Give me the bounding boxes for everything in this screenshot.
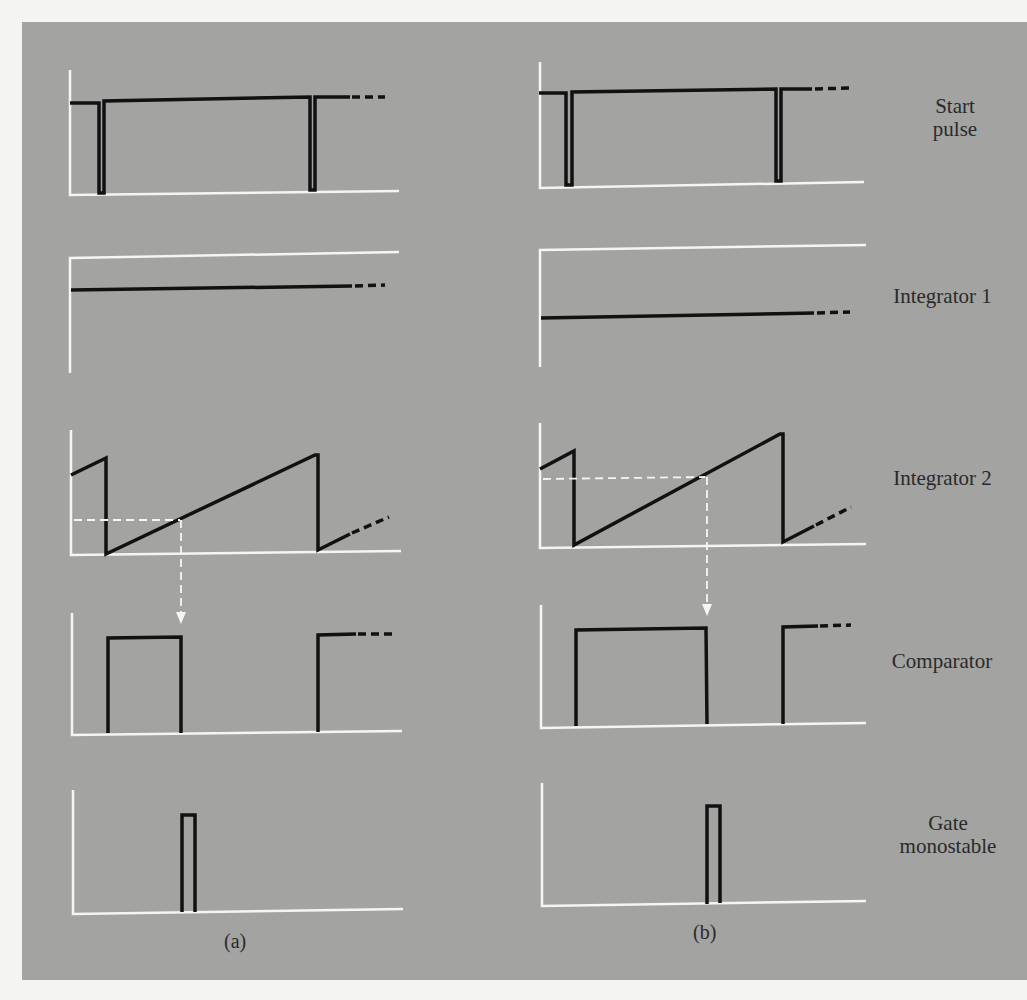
- label-integrator-1-text: Integrator 1: [870, 285, 1015, 308]
- timing-diagram: [0, 0, 1027, 1000]
- caption-b: (b): [693, 921, 716, 944]
- integrator-1-a: [70, 252, 399, 373]
- integrator-1-b: [540, 245, 866, 367]
- caption-a: (a): [224, 930, 246, 953]
- label-start-pulse-line2: pulse: [900, 118, 1010, 141]
- gate-monostable-b: [542, 783, 866, 906]
- label-integrator-1: Integrator 1: [870, 285, 1015, 308]
- label-gate-monostable-line2: monostable: [878, 835, 1018, 858]
- integrator-2-b: [540, 423, 866, 616]
- start-pulse-b: [539, 62, 864, 188]
- label-gate-monostable-line1: Gate: [878, 812, 1018, 835]
- comparator-a: [72, 613, 402, 735]
- label-comparator-text: Comparator: [872, 650, 1012, 673]
- comparator-b: [541, 605, 866, 728]
- label-comparator: Comparator: [872, 650, 1012, 673]
- label-start-pulse-line1: Start: [900, 95, 1010, 118]
- label-start-pulse: Start pulse: [900, 95, 1010, 141]
- label-integrator-2-text: Integrator 2: [870, 467, 1015, 490]
- label-integrator-2: Integrator 2: [870, 467, 1015, 490]
- label-gate-monostable: Gate monostable: [878, 812, 1018, 858]
- gate-monostable-a: [73, 790, 403, 914]
- start-pulse-a: [70, 70, 399, 195]
- integrator-2-a: [71, 430, 401, 624]
